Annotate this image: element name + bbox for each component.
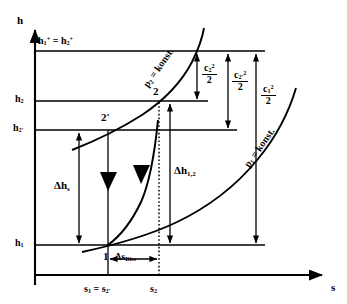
measure-label-dh-s: Δhs <box>54 180 70 192</box>
c1-denominator: 2 <box>261 96 276 107</box>
h2s-sub: 2' <box>19 126 24 133</box>
c2-sup: 2 <box>212 62 215 69</box>
isentropic-path-arrowhead <box>100 172 117 191</box>
isobar-p2-curve <box>72 28 204 150</box>
dh-1-2-main: Δh <box>174 164 187 176</box>
s2s-sub: 2' <box>106 287 111 294</box>
axis-group <box>35 30 322 285</box>
dh-s-main: Δh <box>54 179 67 191</box>
x-axis-label: s <box>331 282 335 293</box>
s1-sub: 1 <box>88 287 91 294</box>
c2s-denominator: 2 <box>232 82 248 93</box>
s2-sub: 2 <box>154 287 157 294</box>
tick-label-s2: s2 <box>150 284 157 295</box>
entropy-level-lines <box>108 101 159 275</box>
h-total-sup-1: + <box>47 35 51 42</box>
tick-label-h1: h1 <box>15 238 24 249</box>
ds-diss-main: Δs <box>115 251 125 262</box>
c2-denominator: 2 <box>202 75 217 86</box>
s1-equals: = <box>94 283 100 294</box>
c1-sup: 2 <box>271 83 274 90</box>
state-point-1-label: 1 <box>103 251 109 262</box>
y-axis-label: h <box>17 15 23 26</box>
velocity-head-c1-label: c12 2 <box>261 84 276 106</box>
dh-1-2-sub: 1,2 <box>187 170 196 177</box>
hs-diagram-figure: h s h1+ = h2+ h2 h2' h1 s1 = s2' s2 2 2'… <box>0 0 347 304</box>
tick-label-h2: h2 <box>15 94 24 105</box>
ds-diss-sub: Diss <box>125 255 136 262</box>
velocity-head-c2s-label: c2'2 2 <box>232 70 248 92</box>
tick-label-s1-s2s: s1 = s2' <box>84 284 110 295</box>
tick-label-h-total: h1+ = h2+ <box>38 36 73 47</box>
measure-label-ds-diss: ΔsDiss <box>115 252 136 263</box>
c2s-sup: 2 <box>243 69 246 76</box>
h2-sub: 2 <box>21 97 24 104</box>
h-total-sup-2: + <box>70 35 74 42</box>
expansion-path-1-2 <box>108 120 158 245</box>
velocity-head-c2-label: c22 2 <box>202 63 217 85</box>
h1-sub: 1 <box>21 241 24 248</box>
state-point-2-label: 2 <box>153 86 159 97</box>
h-total-equals: = <box>53 35 59 46</box>
dh-s-sub: s <box>67 185 70 192</box>
measure-label-dh-1-2: Δh1,2 <box>174 165 196 177</box>
state-point-2s-label: 2' <box>101 112 110 123</box>
tick-label-h2s: h2' <box>13 123 23 134</box>
